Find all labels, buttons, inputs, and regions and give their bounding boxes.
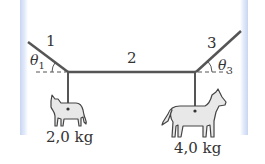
theta-1-label: θ1 [30,53,45,71]
rope-2-label: 2 [127,51,137,66]
cat-attach-point [66,107,69,110]
theta-3-label: θ3 [218,58,233,76]
rope-3-label: 3 [207,36,217,51]
rope-diagram [0,0,265,164]
dog-mass-label: 4,0 kg [174,141,221,156]
cat-mass-label: 2,0 kg [46,130,93,145]
angle-arc-1 [52,62,55,72]
angle-arc-3 [208,61,212,72]
rope-1-label: 1 [46,34,56,49]
dog-attach-point [193,109,196,112]
